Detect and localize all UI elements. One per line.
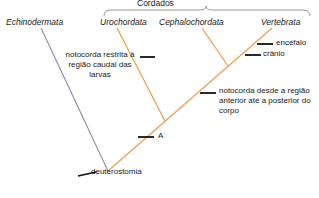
taxon-label-vertebrata: Vertebrata bbox=[261, 18, 300, 28]
annotation-notochord-full: notocorda desde a região anterior até a … bbox=[219, 86, 317, 116]
annotation-cranio: crânio bbox=[263, 49, 285, 58]
group-label-cordados: Cordados bbox=[137, 0, 174, 9]
annotation-encefalo: encéfalo bbox=[276, 38, 306, 47]
annotation-notochord-larval: notocorda restrita à região caudal das l… bbox=[62, 50, 138, 80]
taxon-label-cephalochordata: Cephalochordata bbox=[159, 18, 224, 28]
phylogenetic-tree-diagram: Cordados Echinodermata Urochordata Cepha… bbox=[0, 0, 319, 198]
annotation-deuterostomia: deuterostomia bbox=[91, 167, 142, 176]
cordados-bracket bbox=[104, 6, 310, 16]
node-label-a: A bbox=[158, 131, 163, 140]
branch-cephalochordata bbox=[202, 28, 228, 66]
taxon-label-echinodermata: Echinodermata bbox=[6, 18, 63, 28]
taxon-label-urochordata: Urochordata bbox=[100, 18, 147, 28]
